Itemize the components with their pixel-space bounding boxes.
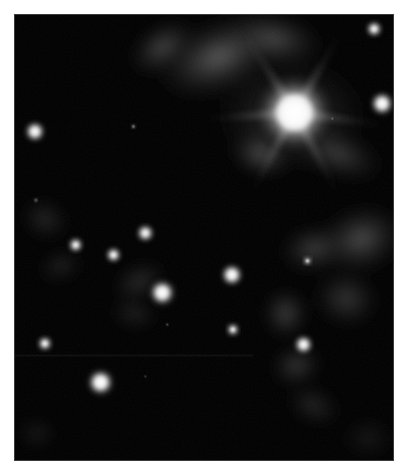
sky-canvas — [15, 15, 393, 460]
astronomy-image-figure — [0, 0, 410, 475]
image-frame — [14, 14, 394, 461]
sensor-grain-overlay — [15, 15, 393, 460]
